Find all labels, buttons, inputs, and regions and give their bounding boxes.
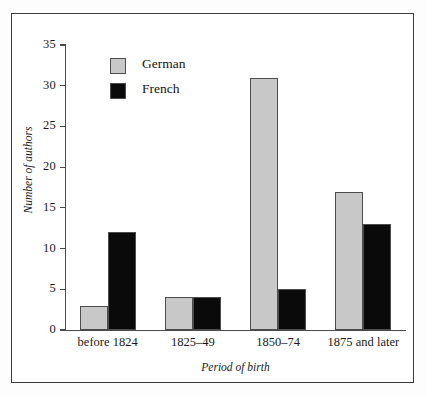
y-axis-tick-label: 0 [32, 322, 56, 337]
bar-german-1 [165, 297, 193, 330]
x-axis-line [65, 330, 406, 331]
bar-german-3 [335, 192, 363, 330]
x-axis-tick-label: before 1824 [65, 335, 150, 350]
legend: German French [110, 55, 250, 105]
y-axis-tick-label: 15 [32, 200, 56, 215]
y-axis-tick [60, 85, 66, 86]
plot-area: 05101520253035 before 18241825–491850–74… [12, 14, 415, 384]
chart-frame-border: 05101520253035 before 18241825–491850–74… [11, 13, 414, 383]
legend-swatch-french [110, 83, 126, 99]
y-axis-tick-label: 35 [32, 37, 56, 52]
bar-german-2 [250, 78, 278, 330]
bar-german-0 [80, 306, 108, 330]
y-axis-tick [60, 248, 66, 249]
y-axis-tick [60, 167, 66, 168]
y-axis-title: Number of authors [22, 110, 34, 230]
x-axis-tick-label: 1875 and later [321, 335, 406, 350]
bar-french-0 [108, 232, 136, 330]
y-axis-tick-label: 20 [32, 159, 56, 174]
y-axis-tick [60, 289, 66, 290]
y-axis-tick [60, 44, 66, 45]
x-axis-tick-label: 1850–74 [236, 335, 321, 350]
y-axis-tick-label: 10 [32, 241, 56, 256]
legend-item-german: German [110, 55, 250, 80]
figure: 05101520253035 before 18241825–491850–74… [0, 0, 427, 396]
x-axis-title: Period of birth [65, 361, 406, 373]
y-axis-tick-label: 25 [32, 118, 56, 133]
legend-item-french: French [110, 80, 250, 105]
x-axis-tick-label: 1825–49 [150, 335, 235, 350]
y-axis-tick [60, 329, 66, 330]
y-axis-tick [60, 207, 66, 208]
y-axis-tick-label: 5 [32, 281, 56, 296]
legend-label-french: French [142, 81, 180, 97]
y-axis-tick [60, 126, 66, 127]
bar-french-1 [193, 297, 221, 330]
y-axis-tick-label: 30 [32, 78, 56, 93]
legend-swatch-german [110, 58, 126, 74]
bar-french-2 [278, 289, 306, 330]
bar-french-3 [363, 224, 391, 330]
legend-label-german: German [142, 56, 185, 72]
